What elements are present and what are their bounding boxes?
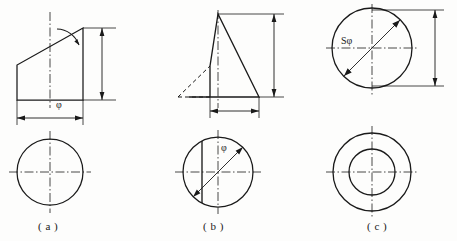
figure-b-drawing	[152, 0, 304, 241]
figure-a-diameter-arrow-right	[75, 116, 83, 121]
figure-a-height-arrow-bottom	[100, 92, 105, 100]
figure-b-width-arrow-left	[210, 109, 218, 114]
figure-c-height-arrow-top	[433, 10, 438, 18]
figure-c-height-arrow-bottom	[433, 78, 438, 86]
figure-c-sphere-diameter-label: Sφ	[341, 35, 352, 46]
figure-b-width-arrow-right	[251, 109, 259, 114]
figure-b-front-view-profile	[189, 14, 259, 97]
drawing-sheet: φ ( a )	[0, 0, 457, 241]
figure-a-caption: ( a )	[38, 220, 58, 232]
figure-a-top-view-centerlines	[9, 131, 91, 213]
figure-c-top-view-centerlines	[326, 4, 418, 96]
figure-c-caption: ( c )	[367, 220, 387, 232]
figure-b-hidden-outline	[178, 66, 210, 97]
figure-a-diameter-arrow-left	[17, 116, 25, 121]
figure-b-height-arrow-bottom	[272, 89, 277, 97]
figure-b-caption: ( b )	[203, 220, 224, 232]
figure-a-diameter-label: φ	[56, 99, 62, 110]
figure-a-height-arrow-top	[100, 28, 105, 36]
figure-b-height-arrow-top	[272, 14, 277, 22]
figure-c-bottom-view-centerlines	[326, 126, 418, 218]
figure-b-width-extension-lines	[210, 97, 259, 118]
figure-a-height-extension-lines	[83, 28, 116, 100]
figure-a-drawing	[0, 0, 152, 241]
figure-a-diameter-extension-lines	[17, 100, 83, 125]
figure-b-diameter-label: φ	[221, 142, 227, 153]
figure-c-drawing	[304, 0, 457, 241]
